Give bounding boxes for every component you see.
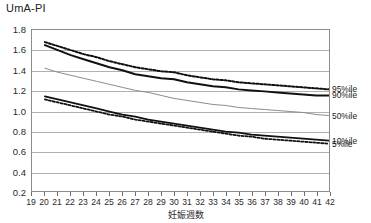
x-tick-label: 41 bbox=[312, 197, 322, 207]
x-tick-mark bbox=[122, 192, 123, 196]
series-lines bbox=[32, 30, 329, 191]
x-tick-mark bbox=[278, 192, 279, 196]
x-tick-mark bbox=[304, 192, 305, 196]
y-tick-label: 1.0 bbox=[13, 105, 26, 116]
x-tick-mark bbox=[109, 192, 110, 196]
x-tick-label: 35 bbox=[234, 197, 244, 207]
x-tick-mark bbox=[265, 192, 266, 196]
legend-label-90pctile: 90%ile bbox=[332, 90, 357, 100]
x-tick-mark bbox=[239, 192, 240, 196]
x-axis-title: 妊娠週数 bbox=[0, 208, 371, 221]
x-tick-mark bbox=[200, 192, 201, 196]
x-tick-mark bbox=[226, 192, 227, 196]
x-tick-mark bbox=[135, 192, 136, 196]
x-tick-mark bbox=[31, 192, 32, 196]
x-tick-label: 42 bbox=[325, 197, 335, 207]
x-tick-label: 39 bbox=[286, 197, 296, 207]
x-tick-label: 40 bbox=[299, 197, 309, 207]
y-tick-label: 0.8 bbox=[13, 125, 26, 136]
y-tick-label: 1.6 bbox=[13, 44, 26, 55]
legend-label-5pctile: 5%ile bbox=[332, 139, 352, 149]
x-tick-mark bbox=[174, 192, 175, 196]
x-tick-label: 30 bbox=[169, 197, 179, 207]
x-tick-label: 38 bbox=[273, 197, 283, 207]
plot-area bbox=[31, 29, 330, 192]
x-tick-mark bbox=[213, 192, 214, 196]
x-tick-label: 27 bbox=[130, 197, 140, 207]
x-tick-mark bbox=[330, 192, 331, 196]
x-tick-mark bbox=[187, 192, 188, 196]
x-tick-label: 37 bbox=[260, 197, 270, 207]
x-tick-mark bbox=[317, 192, 318, 196]
x-tick-label: 20 bbox=[39, 197, 49, 207]
series-line-10pctile bbox=[45, 96, 329, 140]
x-tick-label: 24 bbox=[91, 197, 101, 207]
chart-title: UmA-PI bbox=[6, 2, 46, 14]
x-tick-label: 28 bbox=[143, 197, 153, 207]
y-tick-label: 1.4 bbox=[13, 64, 26, 75]
x-tick-label: 34 bbox=[221, 197, 231, 207]
x-tick-label: 36 bbox=[247, 197, 257, 207]
y-tick-label: 0.4 bbox=[13, 166, 26, 177]
y-axis-tick-labels: 0.20.40.60.81.01.21.41.61.8 bbox=[0, 29, 29, 192]
x-tick-label: 25 bbox=[104, 197, 114, 207]
chart-container: UmA-PI 0.20.40.60.81.01.21.41.61.8 19202… bbox=[0, 0, 371, 223]
y-tick-label: 0.6 bbox=[13, 146, 26, 157]
series-line-90pctile bbox=[45, 45, 329, 95]
x-tick-mark bbox=[96, 192, 97, 196]
x-tick-label: 31 bbox=[182, 197, 192, 207]
x-tick-label: 23 bbox=[78, 197, 88, 207]
y-tick-label: 1.2 bbox=[13, 85, 26, 96]
x-tick-mark bbox=[70, 192, 71, 196]
x-tick-mark bbox=[44, 192, 45, 196]
y-tick-label: 1.8 bbox=[13, 24, 26, 35]
x-tick-label: 26 bbox=[117, 197, 127, 207]
legend: 95%ile90%ile50%ile10%ile5%ile bbox=[332, 29, 371, 192]
x-tick-label: 32 bbox=[195, 197, 205, 207]
x-tick-label: 22 bbox=[65, 197, 75, 207]
x-tick-mark bbox=[83, 192, 84, 196]
x-tick-mark bbox=[148, 192, 149, 196]
x-tick-mark bbox=[57, 192, 58, 196]
x-tick-label: 29 bbox=[156, 197, 166, 207]
x-tick-label: 21 bbox=[52, 197, 62, 207]
y-tick-label: 0.2 bbox=[13, 187, 26, 198]
x-tick-mark bbox=[291, 192, 292, 196]
x-tick-mark bbox=[161, 192, 162, 196]
x-tick-label: 19 bbox=[26, 197, 36, 207]
legend-label-50pctile: 50%ile bbox=[332, 111, 357, 121]
x-tick-mark bbox=[252, 192, 253, 196]
x-tick-label: 33 bbox=[208, 197, 218, 207]
